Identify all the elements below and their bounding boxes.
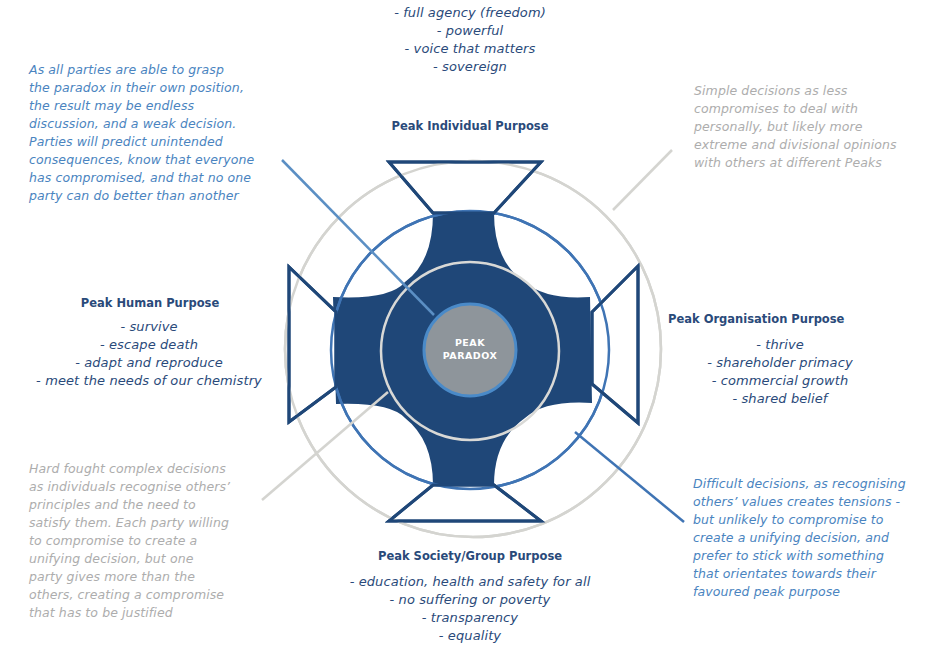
center-label-line1: PEAK xyxy=(430,336,510,349)
peak-society-item: - education, health and safety for all xyxy=(320,573,620,591)
peak-human-item: - escape death xyxy=(20,336,278,354)
peak-individual-item: - voice that matters xyxy=(340,40,600,58)
center-label: PEAK PARADOX xyxy=(430,336,510,362)
note-line: others, creating a compromise xyxy=(29,586,230,604)
center-label-line2: PARADOX xyxy=(430,349,510,362)
note-line: prefer to stick with something xyxy=(693,547,906,565)
note-line: satisfy them. Each party willing xyxy=(29,514,230,532)
note-line: has compromised, and that no one xyxy=(29,169,254,187)
note-line: the result may be endless xyxy=(29,97,254,115)
note-line: Simple decisions as less xyxy=(694,82,897,100)
note-bottom-left: Hard fought complex decisions as individ… xyxy=(29,460,230,622)
peak-human-item: - survive xyxy=(20,318,278,336)
peak-individual-item: - sovereign xyxy=(340,58,600,76)
peak-human-title: Peak Human Purpose xyxy=(30,296,270,310)
note-line: the paradox in their own position, xyxy=(29,79,254,97)
peak-organisation-list: - thrive - shareholder primacy - commerc… xyxy=(680,336,880,408)
note-line: Hard fought complex decisions xyxy=(29,460,230,478)
note-line: As all parties are able to grasp xyxy=(29,61,254,79)
peak-society-item: - transparency xyxy=(320,609,620,627)
note-line: unifying decision, but one xyxy=(29,550,230,568)
note-line: personally, but likely more xyxy=(694,118,897,136)
peak-human-item: - meet the needs of our chemistry xyxy=(20,372,278,390)
peak-society-list: - education, health and safety for all -… xyxy=(320,573,620,645)
peak-organisation-item: - commercial growth xyxy=(680,372,880,390)
note-line: compromises to deal with xyxy=(694,100,897,118)
peak-human-item: - adapt and reproduce xyxy=(20,354,278,372)
peak-human-list: - survive - escape death - adapt and rep… xyxy=(20,318,278,390)
note-line: others’ values creates tensions - xyxy=(693,493,906,511)
note-line: party gives more than the xyxy=(29,568,230,586)
note-line: that has to be justified xyxy=(29,604,230,622)
note-line: favoured peak purpose xyxy=(693,583,906,601)
note-line: discussion, and a weak decision. xyxy=(29,115,254,133)
peak-organisation-item: - thrive xyxy=(680,336,880,354)
note-line: extreme and divisional opinions xyxy=(694,136,897,154)
peak-individual-title: Peak Individual Purpose xyxy=(340,119,600,133)
note-line: but unlikely to compromise to xyxy=(693,511,906,529)
note-top-right: Simple decisions as less compromises to … xyxy=(694,82,897,172)
peak-society-title: Peak Society/Group Purpose xyxy=(340,549,600,563)
peak-organisation-title: Peak Organisation Purpose xyxy=(668,312,868,326)
peak-organisation-item: - shareholder primacy xyxy=(680,354,880,372)
peak-individual-list: - full agency (freedom) - powerful - voi… xyxy=(340,4,600,76)
peak-society-item: - equality xyxy=(320,627,620,645)
note-line: create a unifying decision, and xyxy=(693,529,906,547)
note-line: with others at different Peaks xyxy=(694,154,897,172)
connector-top-right xyxy=(613,150,672,210)
note-bottom-right: Difficult decisions, as recognising othe… xyxy=(693,475,906,601)
note-line: to compromise to create a xyxy=(29,532,230,550)
note-line: Parties will predict unintended xyxy=(29,133,254,151)
connector-bottom-right xyxy=(575,432,684,522)
note-line: consequences, know that everyone xyxy=(29,151,254,169)
note-line: Difficult decisions, as recognising xyxy=(693,475,906,493)
note-top-left: As all parties are able to grasp the par… xyxy=(29,61,254,205)
note-line: party can do better than another xyxy=(29,187,254,205)
peak-individual-item: - powerful xyxy=(340,22,600,40)
note-line: as individuals recognise others’ xyxy=(29,478,230,496)
note-line: that orientates towards their xyxy=(693,565,906,583)
note-line: principles and the need to xyxy=(29,496,230,514)
peak-individual-item: - full agency (freedom) xyxy=(340,4,600,22)
peak-organisation-item: - shared belief xyxy=(680,390,880,408)
peak-society-item: - no suffering or poverty xyxy=(320,591,620,609)
